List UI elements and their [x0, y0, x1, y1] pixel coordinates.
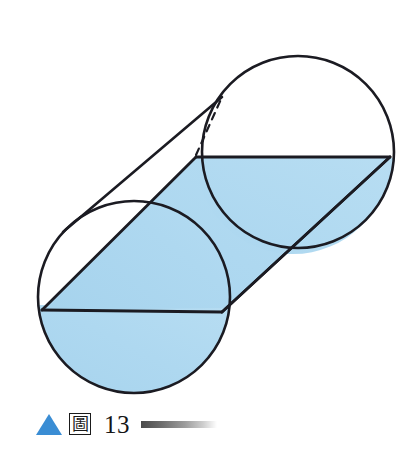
cylinder-water-figure [0, 0, 414, 458]
water-body [30, 157, 400, 410]
figure-caption: 圖 13 [36, 408, 217, 440]
figure-label-char: 圖 [69, 413, 91, 435]
caption-gradient-rule [141, 421, 217, 428]
figure-number: 13 [104, 412, 130, 437]
triangle-marker-icon [36, 414, 62, 435]
water-surface-near-chord [42, 310, 222, 312]
hidden-edge-dashed [196, 97, 222, 155]
